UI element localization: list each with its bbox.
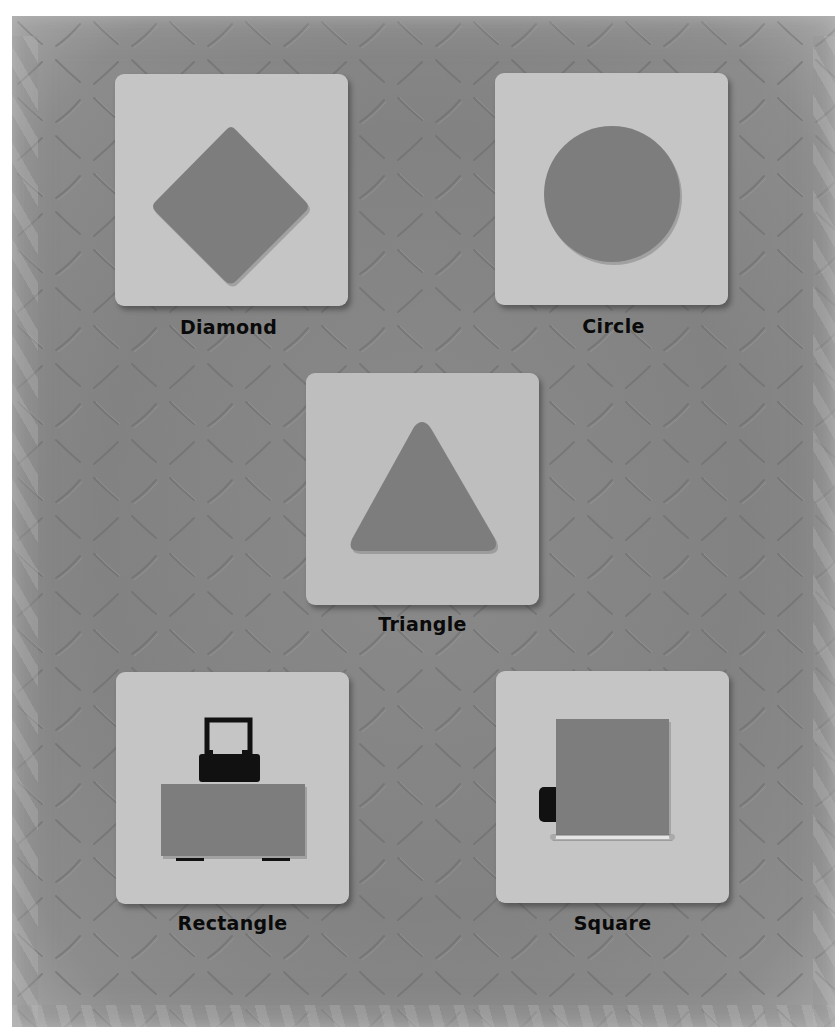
diamond-shape-icon	[115, 74, 348, 306]
square-label: Square	[496, 912, 729, 934]
triangle-label: Triangle	[306, 613, 539, 635]
square-card[interactable]	[496, 671, 729, 903]
triangle-shape-icon	[306, 373, 539, 605]
rectangle-shape-icon	[116, 672, 349, 904]
circle-label: Circle	[497, 315, 730, 337]
diamond-label: Diamond	[112, 316, 345, 338]
square-shape-icon	[496, 671, 729, 903]
rectangle-label: Rectangle	[116, 912, 349, 934]
bottom-hazard-edge	[12, 1005, 835, 1027]
left-hazard-edge	[12, 36, 38, 1026]
diamond-card[interactable]	[115, 74, 348, 306]
right-hazard-edge	[813, 36, 835, 1026]
circle-shape-icon	[495, 73, 728, 305]
circle-card[interactable]	[495, 73, 728, 305]
rectangle-card[interactable]	[116, 672, 349, 904]
shapes-page: Diamond Circle Triangle Recta	[12, 16, 835, 1027]
triangle-card[interactable]	[306, 373, 539, 605]
